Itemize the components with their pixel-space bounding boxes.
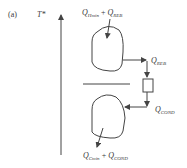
svg-text:QREB: QREB	[151, 56, 166, 66]
cond-label: QCOND	[155, 105, 175, 115]
svg-text:QCOND: QCOND	[155, 105, 175, 115]
heat-integration-diagram: (a) T* QHmin+QREB QREB QCOND QCmin+QCOND	[0, 0, 187, 168]
axis-label: T*	[37, 10, 45, 19]
svg-text:QCmin+QCOND: QCmin+QCOND	[83, 151, 128, 161]
reb-label: QREB	[151, 56, 166, 66]
heat-sink-region-bottom	[92, 95, 125, 138]
svg-text:QHmin+QREB: QHmin+QREB	[82, 8, 122, 18]
bottom-output-label: QCmin+QCOND	[83, 151, 128, 161]
top-input-label: QHmin+QREB	[82, 8, 122, 18]
top-input-arrow	[107, 19, 110, 38]
heat-pump-box	[143, 79, 153, 92]
panel-label: (a)	[8, 10, 17, 19]
